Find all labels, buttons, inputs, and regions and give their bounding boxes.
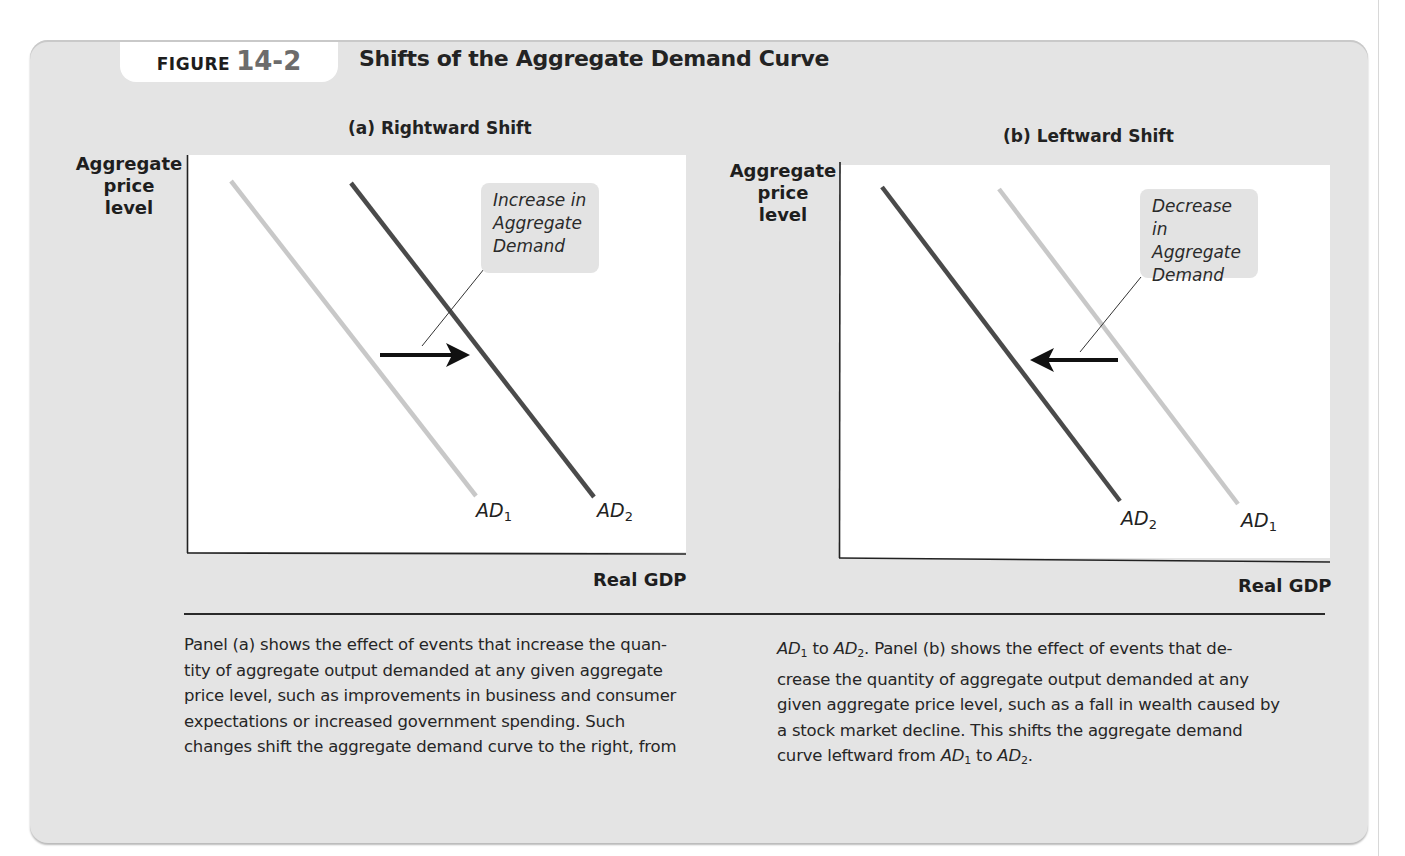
caption-line: crease the quantity of aggregate output … xyxy=(777,667,1280,693)
caption-line: curve leftward from AD1 to AD2. xyxy=(777,743,1280,774)
panel-b-callout: Decrease in Aggregate Demand xyxy=(1140,189,1258,278)
callout-line: Demand xyxy=(1152,264,1248,287)
panel-b-x-axis xyxy=(839,558,1330,562)
panel-a-ad1-label: AD1 xyxy=(476,499,512,524)
panel-a-callout: Increase in Aggregate Demand xyxy=(481,183,599,273)
curve-label-sub: 1 xyxy=(504,509,512,524)
caption-text: to xyxy=(971,746,997,765)
callout-line: Aggregate xyxy=(1152,241,1248,264)
callout-line: Demand xyxy=(493,235,589,258)
caption-text: curve leftward from xyxy=(777,746,941,765)
caption-divider xyxy=(184,613,1325,615)
curve-label-base: AD xyxy=(1121,507,1149,529)
callout-line: Aggregate xyxy=(493,212,589,235)
caption-line: tity of aggregate output demanded at any… xyxy=(184,658,676,684)
caption-text: . xyxy=(1028,746,1033,765)
curve-label-sub: 2 xyxy=(1149,517,1157,532)
ad-term: AD xyxy=(834,639,858,658)
caption-line: price level, such as improvements in bus… xyxy=(184,683,676,709)
curve-label-base: AD xyxy=(1241,509,1269,531)
ad-term: AD xyxy=(997,746,1021,765)
curve-label-sub: 2 xyxy=(625,509,633,524)
callout-line: Decrease in xyxy=(1152,195,1248,241)
caption-line: given aggregate price level, such as a f… xyxy=(777,692,1280,718)
caption-line: changes shift the aggregate demand curve… xyxy=(184,734,676,760)
panel-a-plot xyxy=(187,155,686,554)
panel-a-ad2-label: AD2 xyxy=(597,499,633,524)
caption-line: AD1 to AD2. Panel (b) shows the effect o… xyxy=(777,636,1280,667)
panel-a-x-axis xyxy=(187,553,686,554)
ad-term: AD xyxy=(777,639,801,658)
caption-line: expectations or increased government spe… xyxy=(184,709,676,735)
ad-term: AD xyxy=(941,746,965,765)
caption-left-column: Panel (a) shows the effect of events tha… xyxy=(184,632,676,760)
panel-b-ad1-label: AD1 xyxy=(1241,509,1277,534)
curve-label-base: AD xyxy=(476,499,504,521)
curve-label-base: AD xyxy=(597,499,625,521)
ad-sub: 2 xyxy=(1021,754,1028,767)
curve-label-sub: 1 xyxy=(1269,519,1277,534)
callout-line: Increase in xyxy=(493,189,589,212)
caption-text: to xyxy=(807,639,833,658)
caption-line: Panel (a) shows the effect of events tha… xyxy=(184,632,676,658)
caption-right-column: AD1 to AD2. Panel (b) shows the effect o… xyxy=(777,636,1280,774)
caption-line: a stock market decline. This shifts the … xyxy=(777,718,1280,744)
caption-text: . Panel (b) shows the effect of events t… xyxy=(864,639,1232,658)
panel-b-ad2-label: AD2 xyxy=(1121,507,1157,532)
panel-b-y-axis xyxy=(840,162,841,558)
